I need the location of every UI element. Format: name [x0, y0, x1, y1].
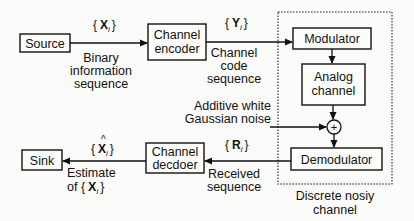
svg-text:code: code	[220, 59, 247, 73]
channel-decoder-block: Channel decdoer	[146, 143, 204, 173]
svg-text:Discrete nosiy: Discrete nosiy	[296, 189, 375, 203]
source-label: Source	[25, 37, 65, 51]
modulator-label: Modulator	[304, 32, 360, 46]
svg-text:Channel: Channel	[211, 46, 258, 60]
svg-text:Gaussian noise: Gaussian noise	[185, 112, 271, 126]
svg-text:of {Xi}: of {Xi}	[67, 180, 104, 196]
received-sequence-label: Received sequence	[207, 167, 261, 194]
binary-info-label: Binary information sequence	[70, 51, 132, 91]
analog-channel-label-2: channel	[312, 84, 356, 98]
demodulator-block: Demodulator	[291, 148, 382, 170]
plus-icon: +	[331, 121, 337, 133]
communication-system-diagram: Source Channel encoder Modulator Analog …	[0, 0, 414, 221]
channel-decoder-label-1: Channel	[152, 145, 199, 159]
hat-accent: ^	[101, 134, 106, 145]
modulator-block: Modulator	[293, 28, 371, 49]
discrete-channel-caption: Discrete nosiy channel	[296, 189, 375, 217]
svg-text:information: information	[70, 64, 132, 78]
estimate-label: Estimate of {Xi}	[67, 166, 116, 196]
channel-encoder-block: Channel encoder	[148, 24, 206, 60]
analog-channel-block: Analog channel	[302, 64, 365, 105]
source-block: Source	[20, 34, 70, 52]
adder-node: +	[327, 120, 341, 134]
channel-decoder-label-2: decdoer	[152, 158, 197, 172]
svg-text:sequence: sequence	[207, 180, 261, 194]
demodulator-label: Demodulator	[301, 153, 373, 167]
signal-y-symbol: {Yi}	[225, 16, 248, 32]
signal-x-symbol: {Xi}	[93, 18, 116, 34]
channel-code-label: Channel code sequence	[207, 46, 261, 86]
noise-label: Additive white Gaussian noise	[185, 99, 271, 126]
channel-encoder-label-2: encoder	[154, 42, 199, 56]
svg-text:channel: channel	[313, 203, 357, 217]
channel-encoder-label-1: Channel	[154, 28, 201, 42]
svg-text:sequence: sequence	[207, 72, 261, 86]
signal-r-symbol: {Ri}	[225, 138, 248, 154]
svg-text:Additive white: Additive white	[194, 99, 271, 113]
svg-text:Received: Received	[208, 167, 260, 181]
analog-channel-label-1: Analog	[314, 70, 353, 84]
svg-text:Binary: Binary	[83, 51, 119, 65]
sink-label: Sink	[30, 154, 55, 168]
svg-text:Estimate: Estimate	[67, 166, 116, 180]
sink-block: Sink	[22, 150, 62, 170]
svg-text:sequence: sequence	[74, 77, 128, 91]
signal-x-hat-symbol: {Xi} ^	[91, 134, 114, 158]
